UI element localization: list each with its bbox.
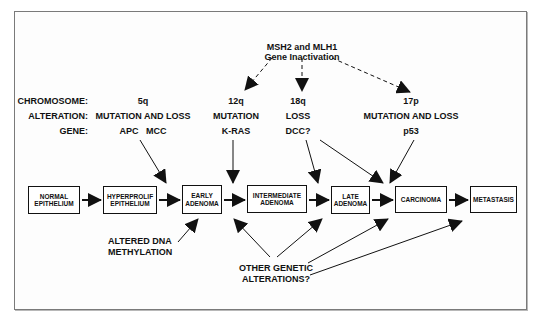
methylation-line2: METHYLATION (108, 247, 172, 258)
other-genetic-alterations-label: OTHER GENETIC ALTERATIONS? (239, 263, 313, 285)
top-factor-line2: Gene Inactivation (264, 52, 339, 62)
row-label-gene: GENE: (8, 126, 88, 136)
col3-chromosome: 18q (290, 96, 306, 106)
stage-line1: METASTASIS (473, 196, 514, 204)
altered-dna-methylation-label: ALTERED DNA METHYLATION (108, 236, 172, 258)
stage-intermediate-adenoma: INTERMEDIATEADENOMA (247, 185, 307, 213)
col4-alteration: MUTATION AND LOSS (364, 111, 459, 121)
stage-metastasis: METASTASIS (470, 186, 517, 213)
stage-line2: ADENOMA (185, 200, 219, 208)
other-line1: OTHER GENETIC (239, 263, 313, 274)
stage-line1: INTERMEDIATE (253, 192, 301, 200)
stage-line1: EARLY (185, 192, 219, 200)
stage-line1: LATE (334, 193, 368, 201)
col1-gene: APC MCC (120, 126, 167, 136)
stage-early-adenoma: EARLYADENOMA (182, 185, 222, 214)
methylation-line1: ALTERED DNA (108, 236, 172, 247)
stage-line2: EPITHELIUM (34, 200, 73, 208)
col3-gene: DCC? (286, 126, 311, 136)
stage-late-adenoma: LATEADENOMA (331, 186, 370, 214)
row-label-alteration: ALTERATION: (8, 111, 88, 121)
row-label-chromosome: CHROMOSOME: (8, 96, 88, 106)
stage-line2: EPITHELIUM (107, 200, 153, 208)
col2-gene: K-RAS (222, 126, 251, 136)
col1-chromosome: 5q (138, 96, 149, 106)
col4-chromosome: 17p (403, 96, 419, 106)
stage-hyperprolif-epithelium: HYPERPROLIFEPITHELIUM (103, 186, 157, 214)
stage-line2: ADENOMA (334, 200, 368, 208)
col4-gene: p53 (403, 126, 419, 136)
gene-arrows (140, 140, 414, 183)
top-factor-line1: MSH2 and MLH1 (264, 42, 339, 52)
mismatch-repair-label: MSH2 and MLH1 Gene Inactivation (264, 42, 339, 62)
other-line2: ALTERATIONS? (239, 274, 313, 285)
col2-alteration: MUTATION (213, 111, 259, 121)
stage-normal-epithelium: NORMALEPITHELIUM (28, 186, 80, 214)
stage-line1: CARCINOMA (401, 196, 441, 204)
col2-chromosome: 12q (228, 96, 244, 106)
stage-line1: NORMAL (34, 193, 73, 201)
col3-alteration: LOSS (286, 111, 311, 121)
col1-alteration: MUTATION AND LOSS (96, 111, 191, 121)
stage-line1: HYPERPROLIF (107, 193, 153, 201)
stage-carcinoma: CARCINOMA (395, 186, 447, 213)
bottom-arrows (178, 219, 462, 275)
stage-line2: ADENOMA (253, 199, 301, 207)
dashed-arrows (245, 58, 410, 92)
